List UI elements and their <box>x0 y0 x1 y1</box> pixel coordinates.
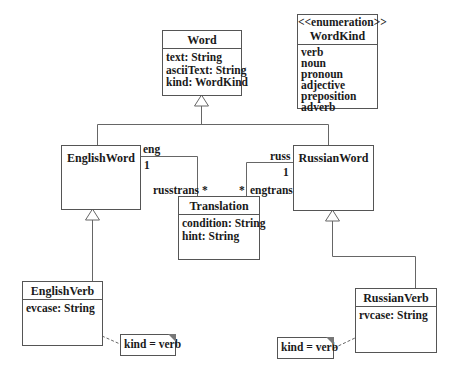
attribute: asciiText: String <box>166 64 238 77</box>
class-name: EnglishVerb <box>23 282 102 300</box>
class-englishword[interactable]: EnglishWord <box>61 145 141 210</box>
class-name: Translation <box>179 197 259 215</box>
role-label-russtrans: russtrans <box>153 184 199 196</box>
class-name: EnglishWord <box>62 146 140 166</box>
note-fold-icon <box>168 334 176 342</box>
enum-header: <<enumeration>> WordKind <box>298 15 377 45</box>
class-russianverb[interactable]: RussianVerb rvcase: String <box>355 288 437 353</box>
enum-literal: adverb <box>301 102 374 113</box>
class-attributes: text: String asciiText: String kind: Wor… <box>163 49 241 91</box>
class-name: WordKind <box>298 29 377 43</box>
stereotype-label: <<enumeration>> <box>298 16 377 29</box>
class-name: RussianVerb <box>356 289 436 307</box>
enum-wordkind[interactable]: <<enumeration>> WordKind verb noun prono… <box>297 14 378 109</box>
note-english-verb[interactable]: kind = verb <box>120 334 176 356</box>
attribute: condition: String <box>182 217 256 230</box>
attribute: evcase: String <box>26 302 99 315</box>
class-attributes: evcase: String <box>23 300 102 317</box>
multiplicity-label: 1 <box>144 159 150 171</box>
class-name: RussianWord <box>294 146 373 166</box>
attribute: hint: String <box>182 230 256 243</box>
class-translation[interactable]: Translation condition: String hint: Stri… <box>178 196 260 260</box>
role-label-eng: eng <box>143 143 160 155</box>
multiplicity-label: * <box>202 184 208 196</box>
class-name: Word <box>163 31 241 49</box>
enum-literals: verb noun pronoun adjective preposition … <box>298 45 377 115</box>
class-word[interactable]: Word text: String asciiText: String kind… <box>162 30 242 96</box>
generalization-russian-verb <box>333 221 416 288</box>
generalization-arrow-word <box>195 95 209 106</box>
role-label-engtrans: engtrans <box>250 184 293 196</box>
attribute: kind: WordKind <box>166 76 238 89</box>
class-attributes: rvcase: String <box>356 307 436 324</box>
note-russian-verb[interactable]: kind = verb <box>277 337 334 359</box>
class-russianword[interactable]: RussianWord <box>293 145 374 211</box>
class-englishverb[interactable]: EnglishVerb evcase: String <box>22 281 103 346</box>
class-attributes: condition: String hint: String <box>179 215 259 244</box>
role-label-russ: russ <box>270 150 290 162</box>
multiplicity-label: 1 <box>283 166 289 178</box>
attribute: rvcase: String <box>359 309 433 322</box>
note-fold-icon <box>326 337 334 345</box>
note-anchor-english <box>102 336 120 344</box>
attribute: text: String <box>166 51 238 64</box>
multiplicity-label: * <box>239 184 245 196</box>
